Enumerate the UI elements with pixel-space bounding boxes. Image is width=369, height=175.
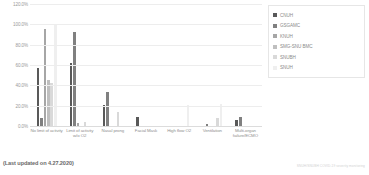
gridline bbox=[30, 85, 262, 86]
bar bbox=[47, 80, 50, 126]
legend-swatch-icon bbox=[273, 66, 277, 70]
legend-swatch-icon bbox=[273, 55, 277, 59]
legend-item[interactable]: KNUH bbox=[273, 31, 361, 42]
legend-item[interactable]: SNUH bbox=[273, 63, 361, 74]
legend-item[interactable]: SNUBH bbox=[273, 52, 361, 63]
gridline bbox=[30, 65, 262, 66]
bar bbox=[70, 63, 73, 126]
legend-label: CNUH bbox=[280, 13, 293, 18]
x-axis-tick-label: No limit of activity bbox=[30, 128, 63, 133]
footer-credit: SNUH/SNUBH COVID-19 severity monitoring bbox=[297, 164, 365, 168]
legend-label: GSGAMC bbox=[280, 23, 300, 28]
y-axis-tick-label: 120.0% bbox=[13, 2, 28, 7]
x-axis-tick-label: Multi-organ failure/ECMO bbox=[229, 128, 262, 139]
legend-swatch-icon bbox=[273, 45, 277, 49]
bar bbox=[54, 25, 57, 126]
bar bbox=[220, 104, 223, 126]
x-axis-tick-label: Limit of activity w/o O2 bbox=[63, 128, 96, 139]
y-axis-tick-label: 80.0% bbox=[15, 42, 28, 47]
x-axis-tick-label: High flow O2 bbox=[163, 128, 196, 133]
bar bbox=[216, 118, 219, 126]
bar bbox=[37, 68, 40, 126]
bar bbox=[187, 105, 190, 126]
legend-label: SNUBH bbox=[280, 55, 296, 60]
y-axis-tick-label: 100.0% bbox=[13, 22, 28, 27]
plot-area: 120.0%100.0%80.0%60.0%40.0%20.0%0.0% No … bbox=[0, 4, 266, 140]
bar bbox=[73, 32, 76, 126]
x-axis-tick-label: Nasal prong bbox=[96, 128, 129, 133]
legend-swatch-icon bbox=[273, 34, 277, 38]
legend-swatch-icon bbox=[273, 13, 277, 17]
bar bbox=[103, 105, 106, 126]
bar bbox=[50, 83, 53, 126]
bar bbox=[40, 118, 43, 126]
legend-label: SMG-SNU BMC bbox=[280, 44, 313, 49]
y-axis: 120.0%100.0%80.0%60.0%40.0%20.0%0.0% bbox=[0, 4, 30, 126]
bar bbox=[117, 112, 120, 126]
gridline bbox=[30, 24, 262, 25]
grouped-bar-chart: 120.0%100.0%80.0%60.0%40.0%20.0%0.0% No … bbox=[0, 0, 369, 175]
bar bbox=[136, 117, 139, 126]
gridlines-and-bars bbox=[30, 4, 262, 126]
y-axis-tick-label: 60.0% bbox=[15, 63, 28, 68]
x-axis-tick-label: Facial Mask bbox=[129, 128, 162, 133]
legend-item[interactable]: SMG-SNU BMC bbox=[273, 42, 361, 53]
bar bbox=[239, 117, 242, 126]
legend-item[interactable]: CNUH bbox=[273, 10, 361, 21]
x-axis-tick-label: Ventilation bbox=[196, 128, 229, 133]
y-axis-tick-label: 20.0% bbox=[15, 103, 28, 108]
gridline bbox=[30, 45, 262, 46]
legend-swatch-icon bbox=[273, 24, 277, 28]
y-axis-tick-label: 0.0% bbox=[18, 124, 28, 129]
x-axis-category-labels: No limit of activityLimit of activity w/… bbox=[30, 128, 262, 150]
bar bbox=[106, 92, 109, 126]
legend-label: KNUH bbox=[280, 34, 293, 39]
legend-label: SNUH bbox=[280, 65, 293, 70]
legend: CNUHGSGAMCKNUHSMG-SNU BMCSNUBHSNUH bbox=[268, 5, 365, 78]
legend-item[interactable]: GSGAMC bbox=[273, 21, 361, 32]
gridline bbox=[30, 4, 262, 5]
gridline bbox=[30, 106, 262, 107]
gridline bbox=[30, 126, 262, 127]
y-axis-tick-label: 40.0% bbox=[15, 83, 28, 88]
last-updated-note: (Last updated on 4.27.2020) bbox=[3, 160, 74, 167]
